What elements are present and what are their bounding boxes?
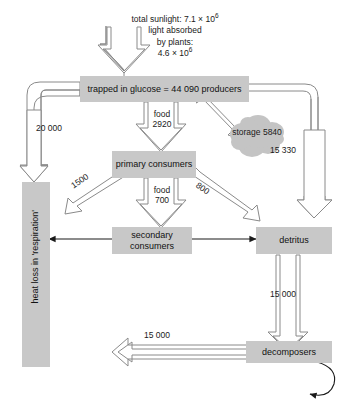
heat-loss-label: heat loss in 'respiration' — [30, 210, 40, 304]
total-sunlight-line: total sunlight: 7.1 × 106 — [95, 14, 255, 25]
node-primary-consumers[interactable]: primary consumers — [112, 151, 196, 178]
flow-label-primary-to-secondary: food 700 — [136, 186, 188, 206]
light-absorbed-value: 4.6 × 10 — [158, 48, 189, 58]
light-absorbed-label: light absorbed — [95, 25, 255, 36]
primary-consumers-to-detritus-arrow — [191, 168, 260, 221]
decomposers-self-loop-arrow — [310, 362, 335, 395]
detritus-to-decomposers-arrow — [268, 255, 308, 352]
flow-label-primary-to-detritus: 800 — [194, 180, 211, 196]
light-absorbed-value-line: 4.6 × 106 — [95, 48, 255, 59]
total-sunlight-exponent: 6 — [215, 12, 219, 19]
light-absorbed-exponent: 6 — [189, 47, 193, 54]
flow-label-decomposers-respiration: 15 000 — [130, 331, 184, 341]
flow-label-producers-to-detritus: 15 330 — [258, 146, 308, 156]
node-decomposers[interactable]: decomposers — [246, 341, 332, 363]
total-sunlight-label: total sunlight: 7.1 × 10 — [131, 14, 214, 24]
node-producers[interactable]: trapped in glucose = 44 090 producers — [80, 76, 249, 102]
node-heat-loss[interactable]: heat loss in 'respiration' — [22, 182, 50, 367]
sunlight-input-text: total sunlight: 7.1 × 106 light absorbed… — [95, 14, 255, 60]
by-plants-label: by plants: — [95, 37, 255, 48]
flow-label-primary-respiration: 1500 — [69, 171, 90, 190]
node-secondary-consumers[interactable]: secondary consumers — [112, 227, 192, 254]
flow-label-producers-to-primary: food 2920 — [136, 110, 188, 130]
flow-label-producers-respiration: 20 000 — [22, 124, 76, 134]
energy-flow-diagram: total sunlight: 7.1 × 106 light absorbed… — [0, 0, 351, 412]
node-detritus[interactable]: detritus — [256, 227, 332, 254]
node-storage-label[interactable]: storage 5840 — [231, 128, 283, 138]
decomposers-to-heat-loss-arrow — [112, 338, 252, 366]
flow-label-detritus-to-decomposers: 15 000 — [258, 290, 308, 300]
